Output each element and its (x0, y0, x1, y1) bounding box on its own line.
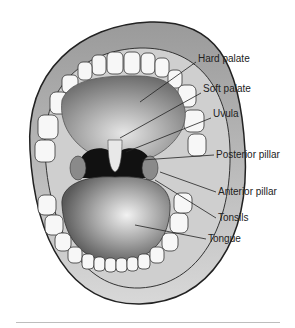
label-soft-palate: Soft palate (203, 84, 251, 94)
mouth-anatomy-diagram: Hard palate Soft palate Uvula Posterior … (0, 0, 295, 328)
label-tongue: Tongue (208, 234, 241, 244)
divider-rule (16, 322, 280, 323)
label-hard-palate: Hard palate (198, 54, 250, 64)
label-posterior-pillar: Posterior pillar (216, 150, 280, 160)
mouth-illustration (0, 0, 295, 328)
label-tonsils: Tonsils (218, 213, 249, 223)
label-anterior-pillar: Anterior pillar (218, 187, 277, 197)
label-uvula: Uvula (213, 109, 239, 119)
hard-palate-area (62, 76, 186, 158)
tonsil-left (70, 156, 86, 180)
